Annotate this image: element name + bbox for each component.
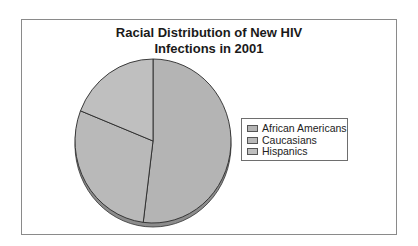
pie-chart (0, 0, 418, 246)
legend-item-hispanics: Hispanics (247, 146, 347, 158)
legend-swatch (247, 148, 258, 155)
legend-item-african-americans: African Americans (247, 123, 347, 135)
legend-swatch (247, 137, 258, 144)
legend: African Americans Caucasians Hispanics (241, 118, 348, 161)
pie-slices (75, 59, 231, 223)
legend-swatch (247, 125, 258, 132)
pie-slice-african-americans (143, 59, 231, 223)
